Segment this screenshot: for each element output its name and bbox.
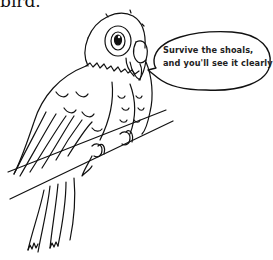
speech-line-1: Survive the shoals, [163,44,263,57]
speech-bubble-text: Survive the shoals, and you'll see it cl… [163,44,263,70]
parrot-tail [28,178,75,252]
parrot-body [14,62,152,176]
speech-line-2: and you'll see it clearly! [163,57,263,70]
parrot-feet [82,131,133,176]
parrot-illustration [0,0,273,260]
